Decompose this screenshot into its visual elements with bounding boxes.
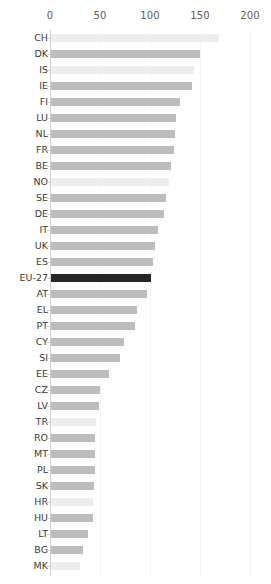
bar [51,306,137,314]
chart-row: BE [0,158,271,174]
category-axis-tick [47,294,50,295]
chart-row: BG [0,542,271,558]
chart-row: IE [0,78,271,94]
category-label: SK [2,480,48,492]
bar [51,274,151,282]
category-label: EL [2,304,48,316]
chart-row: SE [0,190,271,206]
x-axis-tick-label: 100 [140,10,160,21]
chart-row: IS [0,62,271,78]
chart-row: MK [0,558,271,574]
category-axis-tick [47,230,50,231]
bar [51,338,124,346]
bar [51,162,171,170]
bar [51,354,120,362]
chart-row: DE [0,206,271,222]
bar [51,530,88,538]
category-axis-tick [47,454,50,455]
bar [51,34,219,42]
category-label: LV [2,400,48,412]
category-axis-tick [47,486,50,487]
chart-row: ES [0,254,271,270]
bar [51,98,180,106]
chart-row: IT [0,222,271,238]
category-label: EU-27 [2,272,48,284]
category-axis-tick [47,342,50,343]
bar [51,146,174,154]
category-label: HU [2,512,48,524]
plot-area: CHDKISIEFILUNLFRBENOSEDEITUKESEU-27ATELP… [0,30,271,582]
category-axis-tick [47,374,50,375]
bar [51,386,100,394]
category-axis-tick [47,278,50,279]
chart-row: EE [0,366,271,382]
chart-row: CH [0,30,271,46]
category-axis-tick [47,262,50,263]
bar [51,194,166,202]
category-label: PL [2,464,48,476]
category-axis-tick [47,182,50,183]
category-label: SE [2,192,48,204]
chart-row: DK [0,46,271,62]
category-label: PT [2,320,48,332]
category-axis-tick [47,438,50,439]
category-axis-tick [47,38,50,39]
bar [51,258,153,266]
category-axis-tick [47,86,50,87]
bar-chart: 050100150200 CHDKISIEFILUNLFRBENOSEDEITU… [0,0,271,584]
category-label: TR [2,416,48,428]
category-axis-tick [47,390,50,391]
category-axis-tick [47,198,50,199]
bar [51,50,200,58]
category-axis-tick [47,550,50,551]
x-axis-tick-label: 0 [47,10,54,21]
chart-row: HU [0,510,271,526]
bar [51,82,192,90]
category-label: EE [2,368,48,380]
chart-row: SK [0,478,271,494]
category-axis-tick [47,150,50,151]
chart-row: MT [0,446,271,462]
bar [51,434,95,442]
bar [51,402,99,410]
category-label: NO [2,176,48,188]
chart-row: CY [0,334,271,350]
chart-row: EL [0,302,271,318]
bar [51,482,94,490]
chart-row: EU-27 [0,270,271,286]
category-axis-tick [47,326,50,327]
category-axis-tick [47,70,50,71]
category-axis-tick [47,566,50,567]
category-axis-tick [47,470,50,471]
x-axis-tick-label: 200 [240,10,260,21]
x-axis-tick-labels: 050100150200 [0,10,271,24]
bar [51,450,95,458]
category-label: FI [2,96,48,108]
category-axis-tick [47,534,50,535]
category-axis-tick [47,214,50,215]
chart-row: RO [0,430,271,446]
bar [51,546,83,554]
category-label: RO [2,432,48,444]
chart-row: FR [0,142,271,158]
chart-row: PL [0,462,271,478]
chart-row: NO [0,174,271,190]
category-label: FR [2,144,48,156]
category-label: MK [2,560,48,572]
category-label: CZ [2,384,48,396]
chart-row: LU [0,110,271,126]
category-label: HR [2,496,48,508]
bar [51,418,96,426]
category-axis-tick [47,166,50,167]
bar [51,242,155,250]
chart-row: PT [0,318,271,334]
bar [51,226,158,234]
chart-row: TR [0,414,271,430]
bar [51,114,176,122]
category-axis-tick [47,102,50,103]
category-axis-tick [47,502,50,503]
category-label: CH [2,32,48,44]
category-axis-tick [47,54,50,55]
category-label: ES [2,256,48,268]
category-label: DK [2,48,48,60]
